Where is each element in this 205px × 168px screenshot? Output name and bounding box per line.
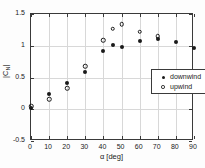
- y-axis-label-post: |: [1, 65, 10, 67]
- filled-circle-icon: [156, 76, 170, 79]
- chart-figure: |CN| α [deg] -0.500.511.5 01020304050607…: [0, 0, 205, 168]
- y-tick-mark: [31, 46, 34, 47]
- x-tick-label: 20: [62, 143, 70, 151]
- gridline-vertical: [49, 14, 50, 139]
- data-point-downwind: [47, 92, 51, 96]
- x-tick-mark: [140, 136, 141, 139]
- data-point-upwind: [29, 104, 34, 109]
- y-tick-mark-right: [189, 14, 192, 15]
- data-point-upwind: [110, 26, 115, 31]
- gridline-vertical: [122, 14, 123, 139]
- y-tick-label: 0.5: [0, 73, 25, 81]
- x-tick-mark: [176, 136, 177, 139]
- x-axis-label: α [deg]: [30, 152, 193, 161]
- data-point-downwind: [138, 39, 142, 43]
- x-tick-mark: [122, 136, 123, 139]
- data-point-downwind: [174, 40, 178, 44]
- x-tick-mark: [103, 136, 104, 139]
- x-tick-mark-top: [194, 14, 195, 17]
- x-tick-label: 30: [80, 143, 88, 151]
- x-tick-label: 80: [171, 143, 179, 151]
- x-tick-mark: [194, 136, 195, 139]
- data-point-upwind: [83, 64, 88, 69]
- data-point-downwind: [83, 70, 87, 74]
- data-point-upwind: [156, 34, 161, 39]
- x-tick-mark-top: [158, 14, 159, 17]
- x-tick-mark-top: [140, 14, 141, 17]
- data-point-downwind: [192, 46, 196, 50]
- y-tick-mark-right: [189, 141, 192, 142]
- y-tick-mark-right: [189, 109, 192, 110]
- x-tick-mark-top: [103, 14, 104, 17]
- legend-box: downwind upwind: [151, 69, 205, 94]
- data-point-upwind: [119, 22, 124, 27]
- y-tick-label: 1.5: [0, 9, 25, 17]
- y-axis-label-sub: N: [5, 67, 11, 71]
- data-point-downwind: [111, 43, 115, 47]
- gridline-horizontal: [31, 109, 192, 110]
- y-tick-mark: [31, 14, 34, 15]
- x-tick-mark: [158, 136, 159, 139]
- legend-item-upwind: upwind: [152, 82, 205, 92]
- x-tick-label: 40: [99, 143, 107, 151]
- y-tick-label: -0.5: [0, 136, 25, 144]
- x-tick-mark: [67, 136, 68, 139]
- data-point-downwind: [65, 81, 69, 85]
- gridline-vertical: [67, 14, 68, 139]
- x-tick-mark-top: [85, 14, 86, 17]
- x-tick-mark: [85, 136, 86, 139]
- x-tick-mark-top: [67, 14, 68, 17]
- data-point-downwind: [120, 45, 124, 49]
- legend-item-downwind: downwind: [152, 72, 205, 82]
- x-tick-label: 50: [117, 143, 125, 151]
- open-circle-icon: [156, 85, 170, 89]
- plot-area: downwind upwind: [30, 13, 193, 140]
- x-tick-label: 10: [44, 143, 52, 151]
- x-tick-label: 70: [153, 143, 161, 151]
- data-point-upwind: [101, 38, 106, 43]
- x-tick-mark: [49, 136, 50, 139]
- y-tick-label: 1: [0, 41, 25, 49]
- y-axis-label: |CN|: [1, 49, 12, 93]
- y-tick-label: 0: [0, 104, 25, 112]
- gridline-vertical: [85, 14, 86, 139]
- data-point-upwind: [47, 97, 52, 102]
- legend-label-downwind: downwind: [170, 73, 201, 81]
- data-point-downwind: [101, 49, 105, 53]
- x-tick-mark: [31, 136, 32, 139]
- x-tick-mark-top: [176, 14, 177, 17]
- gridline-vertical: [103, 14, 104, 139]
- x-tick-label: 90: [189, 143, 197, 151]
- data-point-upwind: [65, 86, 70, 91]
- legend-label-upwind: upwind: [170, 83, 192, 91]
- x-tick-mark-top: [122, 14, 123, 17]
- y-tick-mark: [31, 141, 34, 142]
- x-tick-label: 60: [135, 143, 143, 151]
- x-tick-mark-top: [49, 14, 50, 17]
- y-tick-mark: [31, 78, 34, 79]
- data-point-upwind: [137, 30, 142, 35]
- x-tick-label: 0: [28, 143, 32, 151]
